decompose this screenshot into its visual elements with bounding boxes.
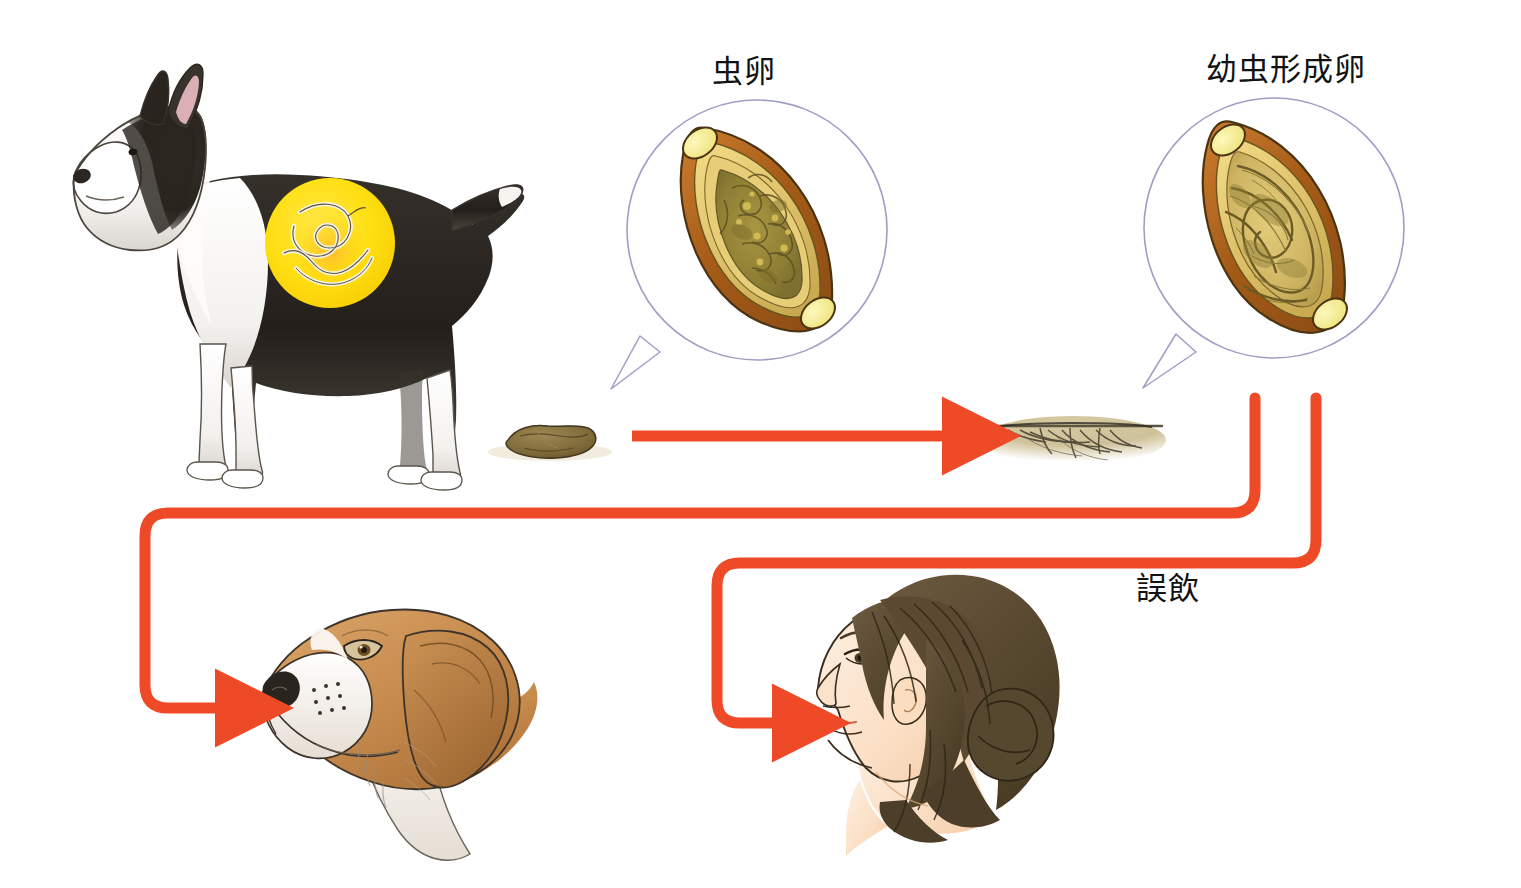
lifecycle-diagram: 虫卵 幼虫形成卵 誤飲 — [0, 0, 1521, 888]
label-larvated-ova: 幼虫形成卵 — [1206, 44, 1366, 89]
arrow-larvated-to-woman — [717, 398, 1316, 723]
arrow-larvated-to-beagle — [145, 398, 1255, 708]
label-accidental-ingestion: 誤飲 — [1136, 563, 1200, 608]
label-ova: 虫卵 — [712, 46, 776, 91]
flow-arrow-layer — [0, 0, 1521, 888]
